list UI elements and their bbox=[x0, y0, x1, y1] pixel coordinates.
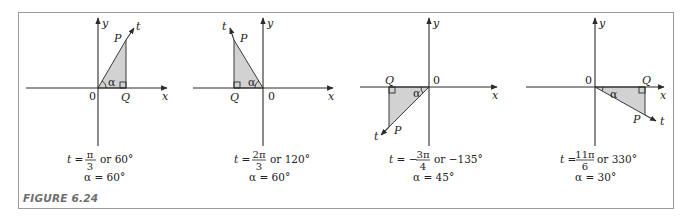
origin-label: 0 bbox=[89, 90, 96, 103]
t-label: t bbox=[374, 130, 379, 143]
x-axis-label: x bbox=[328, 90, 335, 103]
t-numerator: 3π bbox=[417, 149, 430, 160]
t-degrees: or 60° bbox=[100, 153, 133, 165]
t-ray-arrow bbox=[230, 28, 234, 40]
alpha-equation: α = 60° bbox=[84, 171, 125, 183]
alpha-equation: α = 30° bbox=[575, 171, 616, 183]
t-equation: t = bbox=[560, 153, 576, 165]
t-numerator: 2π bbox=[253, 149, 266, 160]
t-numerator: π bbox=[87, 149, 94, 160]
t-equation: t = bbox=[67, 153, 83, 165]
x-axis-label: x bbox=[492, 89, 499, 102]
reference-triangle bbox=[595, 87, 645, 115]
q-label: Q bbox=[385, 74, 394, 87]
figure-label: FIGURE 6.24 bbox=[23, 192, 98, 204]
t-ray-arrow bbox=[381, 127, 389, 135]
t-label: t bbox=[660, 115, 665, 128]
alpha-label: α bbox=[413, 87, 421, 100]
y-axis-label: y bbox=[266, 17, 274, 30]
y-axis-label: y bbox=[598, 17, 606, 30]
panel-1: t P α 0 Q x y t = π 3 or 60° α = 60° bbox=[26, 17, 169, 183]
p-label: P bbox=[239, 32, 248, 45]
t-equation: t = − bbox=[389, 153, 418, 165]
y-axis-label: y bbox=[432, 17, 440, 30]
t-label: t bbox=[222, 20, 227, 33]
alpha-label: α bbox=[248, 76, 256, 89]
t-degrees: or −135° bbox=[434, 153, 483, 165]
t-equation: t = bbox=[234, 153, 250, 165]
alpha-label: α bbox=[108, 76, 116, 89]
t-degrees: or 120° bbox=[270, 153, 310, 165]
alpha-equation: α = 60° bbox=[249, 171, 290, 183]
t-label: t bbox=[136, 20, 141, 33]
t-degrees: or 330° bbox=[597, 153, 637, 165]
t-ray-arrow bbox=[126, 28, 134, 40]
origin-label: 0 bbox=[268, 90, 275, 103]
y-axis-label: y bbox=[101, 17, 109, 30]
panel-3: t P α 0 Q x y t = − 3π 4 or −135° α = 45… bbox=[360, 17, 499, 183]
alpha-label: α bbox=[610, 88, 618, 101]
p-label: P bbox=[393, 124, 402, 137]
x-axis-label: x bbox=[162, 90, 169, 103]
origin-label: 0 bbox=[433, 74, 440, 87]
p-label: P bbox=[113, 32, 122, 45]
origin-label: 0 bbox=[585, 74, 592, 87]
q-label: Q bbox=[230, 91, 239, 104]
panel-4: t P α 0 Q x y t = 11π 6 or 330° α = 30° bbox=[526, 17, 667, 183]
alpha-equation: α = 45° bbox=[413, 171, 454, 183]
t-ray-arrow bbox=[645, 115, 656, 121]
p-label: P bbox=[632, 113, 641, 126]
t-numerator: 11π bbox=[575, 149, 595, 160]
x-axis-label: x bbox=[660, 89, 667, 102]
figure-diagrams: t P α 0 Q x y t = π 3 or 60° α = 60° t P… bbox=[0, 0, 696, 219]
q-label: Q bbox=[642, 74, 651, 87]
q-label: Q bbox=[121, 91, 130, 104]
panel-2: t P α 0 Q x y t = 2π 3 or 120° α = 60° bbox=[193, 17, 335, 183]
